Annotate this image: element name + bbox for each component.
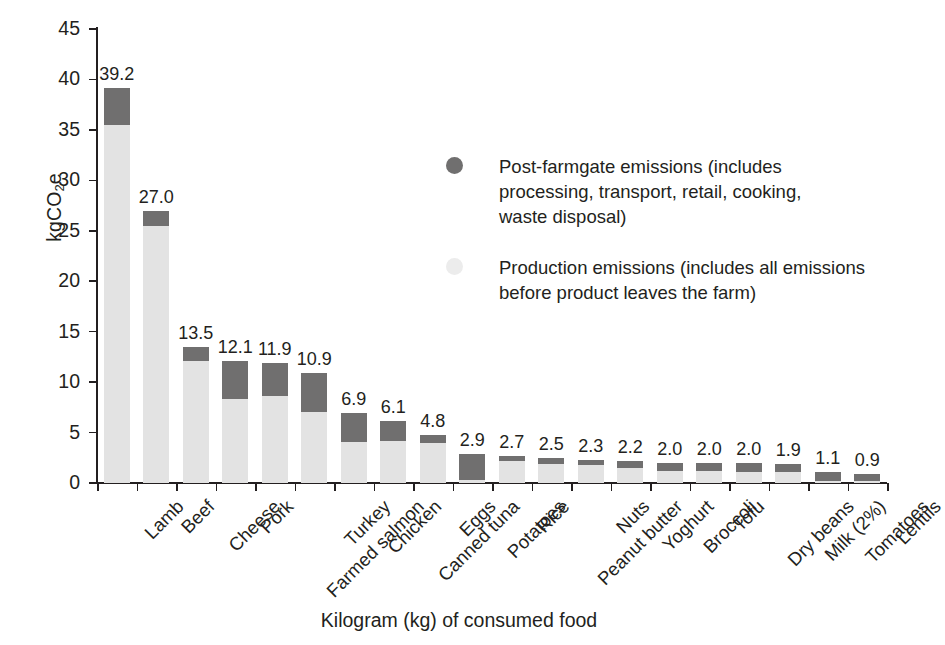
bar-segment-post-farmgate bbox=[420, 435, 446, 443]
bar-segment-post-farmgate bbox=[775, 464, 801, 472]
bar-tomatoes bbox=[815, 472, 841, 483]
bar-segment-post-farmgate bbox=[222, 361, 248, 399]
bar-segment-production bbox=[578, 465, 604, 483]
bar-value-label: 6.1 bbox=[381, 398, 406, 416]
x-tick-mark bbox=[97, 483, 99, 491]
bar-milk-2 bbox=[775, 464, 801, 483]
bar-value-label: 1.1 bbox=[815, 449, 840, 467]
x-axis-title: Kilogram (kg) of consumed food bbox=[0, 609, 918, 632]
x-axis-label: Beef bbox=[178, 497, 218, 537]
x-tick-mark bbox=[887, 483, 889, 491]
bar-segment-post-farmgate bbox=[380, 421, 406, 440]
bar-value-label: 27.0 bbox=[139, 188, 174, 206]
bar-segment-post-farmgate bbox=[696, 463, 722, 471]
x-tick-mark bbox=[532, 483, 534, 491]
bar-segment-post-farmgate bbox=[104, 88, 130, 125]
x-tick-mark bbox=[334, 483, 336, 491]
bar-value-label: 2.5 bbox=[539, 435, 564, 453]
legend-swatch-production-icon bbox=[446, 258, 463, 275]
x-tick-mark bbox=[769, 483, 771, 491]
bar-turkey bbox=[301, 373, 327, 483]
x-tick-mark bbox=[729, 483, 731, 491]
legend-swatch-post-farmgate-icon bbox=[446, 157, 463, 174]
bar-segment-production bbox=[341, 442, 367, 483]
bar-chicken bbox=[341, 413, 367, 483]
x-tick-mark bbox=[848, 483, 850, 491]
bar-segment-post-farmgate bbox=[301, 373, 327, 412]
bar-broccoli bbox=[657, 463, 683, 483]
bar-potatoes bbox=[459, 454, 485, 483]
x-tick-mark bbox=[650, 483, 652, 491]
legend-label: Production emissions (includes all emiss… bbox=[499, 255, 886, 305]
bar-value-label: 4.8 bbox=[420, 412, 445, 430]
bar-segment-post-farmgate bbox=[341, 413, 367, 441]
bar-segment-production bbox=[262, 396, 288, 483]
y-tick-label: 45 bbox=[42, 19, 80, 39]
bar-segment-production bbox=[854, 481, 880, 483]
bar-segment-post-farmgate bbox=[815, 472, 841, 481]
bar-segment-production bbox=[696, 471, 722, 483]
bar-rice bbox=[499, 456, 525, 483]
bar-canned-tuna bbox=[380, 421, 406, 483]
bar-dry-beans bbox=[736, 463, 762, 483]
y-tick-label: 40 bbox=[42, 69, 80, 89]
y-tick-label: 20 bbox=[42, 271, 80, 291]
y-tick-label: 30 bbox=[42, 170, 80, 190]
bar-segment-production bbox=[499, 461, 525, 483]
y-tick-mark bbox=[89, 28, 97, 30]
x-tick-mark bbox=[413, 483, 415, 491]
bar-value-label: 10.9 bbox=[297, 350, 332, 368]
x-tick-mark bbox=[137, 483, 139, 491]
bar-segment-production bbox=[222, 399, 248, 483]
bar-value-label: 2.9 bbox=[460, 431, 485, 449]
bar-segment-production bbox=[380, 441, 406, 483]
bar-segment-production bbox=[143, 226, 169, 483]
y-tick-mark bbox=[89, 129, 97, 131]
bar-segment-post-farmgate bbox=[854, 474, 880, 482]
y-tick-label: 0 bbox=[42, 473, 80, 493]
bar-value-label: 2.0 bbox=[657, 440, 682, 458]
x-tick-mark bbox=[571, 483, 573, 491]
x-tick-mark bbox=[808, 483, 810, 491]
bar-lentils bbox=[854, 474, 880, 483]
bar-value-label: 11.9 bbox=[258, 340, 292, 358]
legend-item: Post-farmgate emissions (includesprocess… bbox=[446, 154, 886, 229]
x-axis-label: Lentils bbox=[894, 497, 945, 548]
y-tick-mark bbox=[89, 180, 97, 182]
bar-segment-post-farmgate bbox=[262, 363, 288, 396]
bar-value-label: 6.9 bbox=[341, 390, 366, 408]
bar-value-label: 2.2 bbox=[618, 438, 643, 456]
x-tick-mark bbox=[374, 483, 376, 491]
y-tick-mark bbox=[89, 331, 97, 333]
y-axis-line bbox=[96, 27, 98, 484]
bar-segment-post-farmgate bbox=[617, 461, 643, 468]
y-tick-label: 15 bbox=[42, 322, 80, 342]
bar-peanut-butter bbox=[538, 458, 564, 483]
x-tick-mark bbox=[453, 483, 455, 491]
y-axis-title: kgCO2e bbox=[43, 148, 66, 268]
bar-segment-production bbox=[775, 472, 801, 483]
y-tick-label: 5 bbox=[42, 423, 80, 443]
bar-segment-production bbox=[459, 480, 485, 483]
bar-value-label: 13.5 bbox=[178, 324, 213, 342]
bar-segment-production bbox=[617, 468, 643, 483]
y-tick-mark bbox=[89, 280, 97, 282]
bar-segment-post-farmgate bbox=[538, 458, 564, 464]
bar-segment-production bbox=[183, 361, 209, 483]
x-tick-mark bbox=[295, 483, 297, 491]
chart-legend: Post-farmgate emissions (includesprocess… bbox=[446, 154, 886, 331]
bar-beef bbox=[143, 211, 169, 483]
bar-nuts bbox=[578, 460, 604, 483]
bar-value-label: 1.9 bbox=[776, 441, 801, 459]
bar-value-label: 2.7 bbox=[499, 433, 524, 451]
bar-segment-production bbox=[815, 481, 841, 483]
bar-segment-production bbox=[420, 443, 446, 483]
bar-segment-post-farmgate bbox=[459, 454, 485, 480]
x-tick-mark bbox=[690, 483, 692, 491]
bar-value-label: 12.1 bbox=[218, 338, 253, 356]
bar-segment-production bbox=[104, 125, 130, 483]
bar-segment-post-farmgate bbox=[578, 460, 604, 465]
legend-label: Post-farmgate emissions (includesprocess… bbox=[499, 154, 886, 229]
x-tick-mark bbox=[255, 483, 257, 491]
bar-pork bbox=[222, 361, 248, 483]
